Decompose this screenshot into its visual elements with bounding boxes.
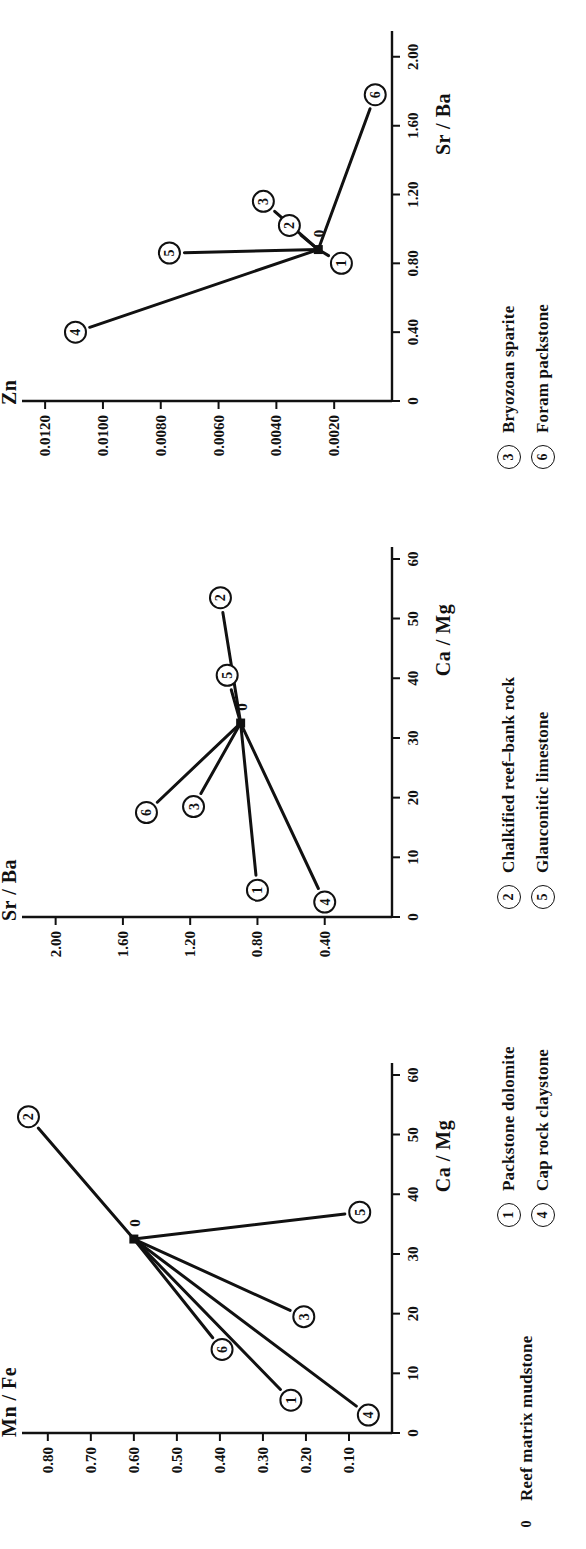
connector-line [134,1239,356,1406]
x-tick-label: 40 [405,671,421,686]
x-axis-title: Ca / Mg [432,1120,455,1192]
y-axis-title: Mn / Fe [0,1367,20,1437]
x-tick-label: 2.00 [405,44,421,70]
connector-line [184,250,318,253]
x-tick-label: 1.60 [405,113,421,139]
x-tick-label: 0.80 [405,250,421,276]
chart-panel-2: 01020304050600.400.801.201.602.00Sr / Ba… [0,525,470,1025]
origin-label: 0 [311,230,327,238]
x-tick-label: 10 [405,1366,421,1381]
data-point-marker: 3 [183,796,204,817]
y-tick-label: 0.0040 [268,415,284,456]
data-point-marker: 6 [212,1339,233,1360]
y-tick-label: 0.10 [341,1447,357,1473]
marker-number: 3 [256,198,271,205]
marker-number: 2 [213,594,228,601]
legend-column-2: 2Chalkified reef–bank rock5Glauconitic l… [492,677,560,909]
connector-line [134,1239,290,1310]
connector-line [241,723,319,888]
data-point-marker: 2 [279,215,300,236]
marker-number: 2 [282,222,297,229]
y-tick-label: 0.40 [212,1447,228,1473]
x-tick-label: 50 [405,1127,421,1142]
origin-label: 0 [127,1219,143,1227]
x-tick-label: 0 [405,913,421,921]
x-tick-label: 50 [405,611,421,626]
legend-item-label: Cap rock claystone [533,1049,553,1191]
marker-number: 6 [368,91,383,98]
y-tick-label: 0.0060 [211,415,227,456]
legend-key-circled: 4 [531,1203,555,1227]
y-tick-label: 0.20 [298,1447,314,1473]
marker-number: 1 [334,260,349,267]
marker-number: 3 [297,1313,312,1320]
y-tick-label: 0.80 [40,1447,56,1473]
figure-legend: 0Reef matrix mudstone 1Packstone dolomit… [472,0,586,1549]
data-point-marker: 2 [18,1106,39,1127]
origin-marker [314,245,323,254]
data-point-marker: 4 [314,892,335,913]
legend-column-0: 0Reef matrix mudstone [510,1336,544,1535]
y-tick-label: 0.80 [249,931,265,957]
legend-item-label: Reef matrix mudstone [517,1336,537,1501]
legend-key-circled: 3 [497,445,521,469]
marker-number: 5 [162,250,177,257]
marker-number: 6 [139,809,154,816]
x-tick-label: 0 [405,397,421,405]
figure-plate: 01020304050600.100.200.300.400.500.600.7… [0,0,586,1549]
y-tick-label: 0.0020 [326,415,342,456]
data-point-marker: 5 [159,243,180,264]
y-tick-label: 0.0120 [37,415,53,456]
marker-number: 5 [353,1209,368,1216]
legend-column-1: 1Packstone dolomite4Cap rock claystone [492,1046,560,1227]
origin-marker [129,1235,138,1244]
connector-line [90,250,319,328]
legend-item: 5Glauconitic limestone [526,677,560,909]
data-point-marker: 4 [65,322,86,343]
data-point-marker: 5 [217,665,238,686]
connector-line [134,1214,345,1239]
data-point-marker: 1 [331,253,352,274]
y-tick-label: 0.30 [255,1447,271,1473]
chart-svg-3: 00.400.801.201.602.000.00200.00400.00600… [0,9,470,509]
marker-number: 1 [250,887,265,894]
marker-number: 4 [68,329,83,336]
x-tick-label: 10 [405,850,421,865]
legend-item: 6Foram packstone [526,304,560,469]
data-point-marker: 3 [293,1306,314,1327]
origin-label: 0 [234,703,250,711]
y-tick-label: 0.50 [169,1447,185,1473]
data-series-group [157,613,318,889]
data-series-group [38,1128,356,1406]
data-point-marker: 4 [358,1405,379,1426]
x-tick-label: 20 [405,790,421,805]
y-tick-label: 0.60 [126,1447,142,1473]
connector-line [318,109,370,250]
x-tick-label: 40 [405,1187,421,1202]
legend-key-circled: 6 [531,445,555,469]
legend-item-label: Packstone dolomite [499,1046,519,1191]
connector-line [38,1128,134,1239]
x-tick-label: 20 [405,1306,421,1321]
x-tick-label: 0.40 [405,319,421,345]
y-tick-label: 1.20 [182,931,198,957]
y-axis-title: Sr / Ba [0,859,20,921]
x-tick-label: 30 [405,1246,421,1261]
legend-item: 2Chalkified reef–bank rock [492,677,526,909]
legend-key: 0 [516,1513,538,1535]
legend-item-label: Bryozoan sparite [499,306,519,433]
x-axis-title: Sr / Ba [432,93,454,155]
marker-number: 6 [215,1346,230,1353]
y-tick-label: 0.40 [317,931,333,957]
x-tick-label: 1.20 [405,181,421,207]
x-axis-title: Ca / Mg [432,604,455,676]
chart-panel-3: 00.400.801.201.602.000.00200.00400.00600… [0,9,470,509]
y-tick-label: 1.60 [115,931,131,957]
marker-number: 4 [361,1412,376,1419]
origin-marker [236,719,245,728]
legend-key-circled: 5 [531,885,555,909]
legend-column-3: 3Bryozoan sparite6Foram packstone [492,304,560,469]
legend-item-label: Glauconitic limestone [533,712,553,873]
legend-key-circled: 1 [497,1203,521,1227]
data-point-marker: 5 [349,1202,370,1223]
